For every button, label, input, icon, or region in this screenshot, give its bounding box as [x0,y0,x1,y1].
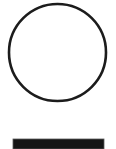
page-background [0,0,116,149]
solid-bar-shape [13,139,104,149]
figure-canvas [0,0,116,149]
scan-page: Circle Bar [0,0,116,149]
